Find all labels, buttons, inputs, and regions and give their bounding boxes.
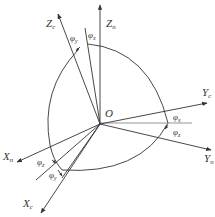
label-zc: Zc (46, 17, 56, 31)
coordinate-diagram: Zc Zn φy φx O Yc φx φz Yn Xn φz φy Xc (0, 0, 215, 217)
label-xn: Xn (2, 150, 14, 164)
projection-line-top (85, 28, 100, 124)
projection-line-bottom-2 (62, 124, 100, 178)
label-xc: Xc (22, 197, 34, 211)
label-phi-top-left: φy (70, 33, 78, 44)
label-phi-right-upper: φx (173, 112, 181, 123)
axis-yc (100, 103, 207, 124)
rotation-arc-left (48, 50, 78, 145)
label-phi-top-right: φx (88, 30, 96, 41)
label-origin: O (105, 107, 113, 119)
label-yn: Yn (204, 152, 214, 166)
rotation-arc-right-bottom (62, 123, 168, 170)
label-phi-bottom-lower: φy (49, 170, 57, 181)
label-phi-bottom-upper: φz (37, 157, 45, 168)
axis-zc (58, 14, 100, 124)
label-zn: Zn (106, 17, 116, 31)
label-yc: Yc (202, 86, 212, 100)
axis-yn (100, 124, 211, 150)
angle-arrow-bottom (58, 170, 62, 176)
label-phi-right-lower: φz (173, 127, 181, 138)
